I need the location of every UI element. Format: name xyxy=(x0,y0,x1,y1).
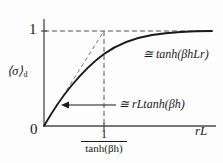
fraction-denominator: tanh(βh) xyxy=(73,143,135,154)
tanh-curve xyxy=(44,31,212,126)
tangent-annotation-arrow xyxy=(61,102,116,109)
annotation-tangent-label: ≅ rLtanh(βh) xyxy=(119,98,185,110)
x-axis-tick-label-fraction: 1 tanh(βh) xyxy=(73,128,135,154)
x-axis-title: rL xyxy=(195,124,207,137)
fraction-numerator: 1 xyxy=(73,128,135,141)
y-axis-title: ⟨σ⟩d xyxy=(7,64,27,79)
figure-container: 1 ⟨σ⟩d 0 rL 1 tanh(βh) ≅ tanh(βhLr) ≅ rL… xyxy=(0,0,223,163)
y-axis-title-subscript: d xyxy=(23,70,27,79)
y-axis-title-symbol: ⟨σ⟩ xyxy=(7,63,23,78)
y-axis-tick-label-one: 1 xyxy=(29,22,37,37)
origin-label: 0 xyxy=(30,122,38,137)
annotation-asymptote-label: ≅ tanh(βhLr) xyxy=(143,48,209,60)
